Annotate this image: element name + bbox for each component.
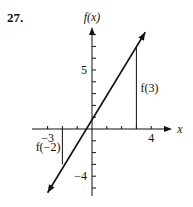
y-axis-label: f(x) (84, 10, 101, 24)
function-arrow-bottom (48, 184, 55, 192)
marks (48, 32, 146, 192)
ticks (48, 35, 152, 188)
x-tick-label: 4 (148, 131, 154, 145)
x-axis-arrow (164, 126, 172, 132)
chart-svg: 27. −345−4xf(x)f(3)f(−2) (0, 0, 193, 207)
annotation-label: f(3) (140, 81, 158, 95)
function-arrow-top (138, 32, 145, 40)
y-tick-label: 5 (81, 63, 87, 77)
axes (32, 27, 172, 196)
x-axis-label: x (176, 122, 183, 136)
problem-number: 27. (7, 10, 23, 25)
y-tick-label: −4 (74, 169, 87, 183)
annotation-label: f(−2) (36, 140, 61, 154)
function-line (48, 32, 146, 192)
labels: −345−4xf(x)f(3)f(−2) (36, 10, 184, 183)
y-axis-arrow (89, 27, 95, 35)
